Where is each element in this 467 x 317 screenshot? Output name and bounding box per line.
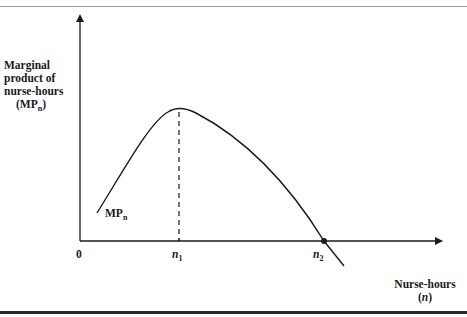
origin-tick-label: 0 [76, 248, 82, 260]
y-axis-label: Marginal product of nurse-hours (MPn) [4, 59, 82, 115]
n2-tick-label: n2 [313, 248, 323, 263]
x-axis-label: Nurse-hours (n) [390, 278, 460, 304]
mpn-curve [97, 109, 344, 266]
mpn-series-label: MPn [105, 207, 127, 222]
n2-point [321, 238, 327, 244]
n1-tick-label: n1 [172, 248, 182, 263]
chart-plot [0, 0, 467, 317]
